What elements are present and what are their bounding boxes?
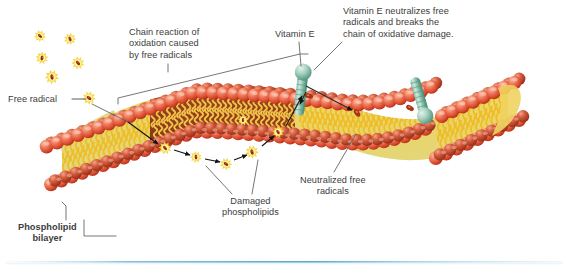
footer-rule-soft — [6, 263, 563, 264]
diagram-canvas: Chain reaction of oxidation caused by fr… — [0, 0, 569, 271]
label-chain-reaction: Chain reaction of oxidation caused by fr… — [129, 27, 199, 61]
label-vitamin-e-action: Vitamin E neutralizes free radicals and … — [343, 6, 454, 40]
leader-damaged-2 — [252, 160, 258, 194]
leader-damaged-1 — [206, 166, 232, 194]
label-free-radical: Free radical — [8, 94, 57, 105]
leader-bilayer-1 — [62, 202, 66, 220]
label-damaged-phospholipids: Damaged phospholipids — [222, 196, 279, 219]
leader-vitamin-e-action — [314, 42, 342, 70]
bilayer-illustration — [0, 0, 569, 271]
footer-rule — [6, 261, 563, 263]
label-phospholipid-bilayer: Phospholipid bilayer — [18, 222, 77, 245]
leader-bilayer-2 — [84, 220, 116, 236]
label-neutralized-free-radicals: Neutralized free radicals — [300, 175, 366, 198]
label-vitamin-e: Vitamin E — [275, 29, 315, 40]
